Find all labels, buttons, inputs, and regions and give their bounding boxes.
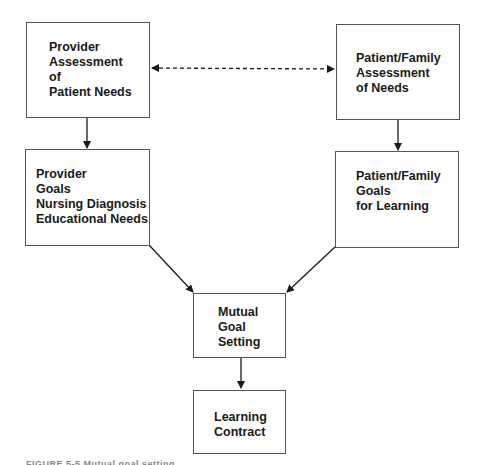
node-family-assessment: Patient/Family Assessment of Needs (336, 24, 460, 120)
node-mutual-goal-setting: Mutual Goal Setting (193, 293, 286, 358)
node-label: Mutual Goal Setting (218, 305, 260, 350)
node-label: Learning Contract (214, 410, 267, 440)
dashed-bidirectional-arrow (152, 68, 334, 69)
node-family-goals: Patient/Family Goals for Learning (335, 151, 459, 248)
node-provider-assessment: Provider Assessment of Patient Needs (26, 22, 150, 118)
arrow-provider-goals-to-mutual (149, 245, 193, 292)
arrow-family-goals-to-mutual (287, 247, 335, 292)
node-label: Provider Goals Nursing Diagnosis Educati… (36, 167, 148, 227)
figure-caption: FIGURE 5-5 Mutual goal setting (26, 459, 175, 465)
node-label: Patient/Family Assessment of Needs (356, 51, 441, 96)
node-learning-contract: Learning Contract (193, 390, 286, 454)
node-label: Provider Assessment of Patient Needs (49, 40, 132, 100)
node-provider-goals: Provider Goals Nursing Diagnosis Educati… (25, 149, 150, 246)
node-label: Patient/Family Goals for Learning (356, 169, 441, 214)
